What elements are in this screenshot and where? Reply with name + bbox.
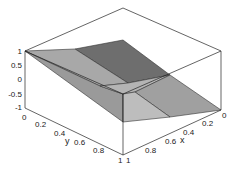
- z-tick: -0.5: [8, 90, 22, 99]
- x-tick: 0.2: [202, 119, 214, 128]
- y-tick: 0.8: [93, 146, 105, 155]
- z-axis: 1 0.5 0 -0.5 -1: [8, 47, 22, 112]
- x-tick: 0.4: [183, 128, 195, 137]
- y-axis: 0 0.2 0.4 y 0.6 0.8 1: [22, 113, 123, 165]
- surface-plot: 1 0.5 0 -0.5 -1 0 0.2 0.4 y 0.6 0.8 1 1 …: [0, 0, 235, 172]
- x-tick: 1: [126, 156, 131, 165]
- z-tick: 0: [18, 75, 23, 84]
- x-tick: 0: [222, 111, 227, 120]
- x-tick: 0.6: [165, 137, 177, 146]
- z-tick: 0.5: [11, 61, 23, 70]
- y-tick: 0.4: [54, 129, 66, 138]
- x-tick: 0.8: [145, 146, 157, 155]
- y-tick: 0: [22, 113, 27, 122]
- y-tick: 0.2: [35, 120, 47, 129]
- y-axis-label: y: [65, 136, 70, 146]
- z-tick: -1: [15, 103, 23, 112]
- y-tick: 1: [118, 156, 123, 165]
- y-tick: 0.6: [74, 138, 86, 147]
- z-tick: 1: [18, 47, 23, 56]
